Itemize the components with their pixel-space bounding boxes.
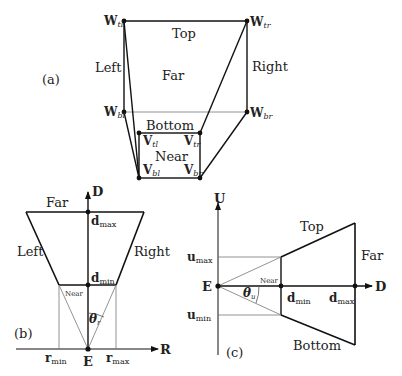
vertex-v-bl: Vbl bbox=[142, 163, 160, 178]
theta-u-arc bbox=[256, 286, 259, 303]
vertex-w-tl: Wtl bbox=[103, 14, 124, 29]
edge-tl bbox=[124, 21, 139, 178]
face-far: Far bbox=[46, 195, 69, 210]
face-near: Near bbox=[65, 290, 83, 298]
face-left: Left bbox=[95, 60, 122, 75]
origin-e: E bbox=[83, 354, 93, 369]
d-axis-label: D bbox=[92, 184, 103, 199]
edge-tr bbox=[200, 21, 247, 133]
d-min-label: dmin bbox=[287, 291, 311, 306]
face-far: Far bbox=[361, 248, 384, 263]
edge-br bbox=[200, 112, 247, 178]
d-min-label: dmin bbox=[91, 271, 115, 286]
r-axis-label: R bbox=[160, 342, 171, 357]
theta-u-label: θu bbox=[243, 286, 256, 301]
panel-c-tag: (c) bbox=[226, 345, 243, 360]
face-bottom: Bottom bbox=[146, 118, 194, 133]
face-near: Near bbox=[260, 277, 278, 285]
u-min-label: umin bbox=[187, 308, 211, 323]
panel-a: (a) Top Far Left Right Bottom Near Wtl W… bbox=[42, 14, 289, 180]
panel-a-tag: (a) bbox=[42, 72, 60, 87]
u-max-label: umax bbox=[187, 250, 213, 265]
u-axis-label: U bbox=[214, 191, 226, 206]
r-min-label: rmin bbox=[45, 351, 67, 366]
edge-bl bbox=[124, 112, 139, 178]
face-top: Top bbox=[300, 219, 324, 234]
r-max-label: rmax bbox=[106, 351, 130, 366]
vertex-w-tr: Wtr bbox=[249, 15, 272, 30]
face-far: Far bbox=[162, 68, 185, 83]
vertex-v-tl: Vtl bbox=[142, 134, 159, 149]
face-right: Right bbox=[134, 244, 171, 259]
d-max-label: dmax bbox=[329, 291, 355, 306]
d-max-label: dmax bbox=[91, 214, 117, 229]
face-right: Right bbox=[252, 59, 289, 74]
face-bottom: Bottom bbox=[293, 338, 341, 353]
d-axis-label: D bbox=[375, 279, 386, 294]
vertex-w-br: Wbr bbox=[249, 106, 274, 121]
theta-r-label: θr bbox=[89, 312, 101, 327]
vertex-w-bl: Wbl bbox=[103, 105, 126, 120]
vertex-v-tr: Vtr bbox=[183, 134, 202, 149]
face-left: Left bbox=[17, 244, 44, 259]
frustum-figure: (a) Top Far Left Right Bottom Near Wtl W… bbox=[0, 0, 402, 376]
panel-b-tag: (b) bbox=[14, 326, 32, 341]
origin-e: E bbox=[202, 279, 212, 294]
face-near: Near bbox=[155, 149, 189, 164]
face-top: Top bbox=[172, 26, 196, 41]
panel-c: U D E Top Far Bottom Near (c) umax umin … bbox=[187, 191, 386, 360]
panel-b: D R E Far Left Right Near (b) dmax dmin … bbox=[14, 184, 171, 369]
